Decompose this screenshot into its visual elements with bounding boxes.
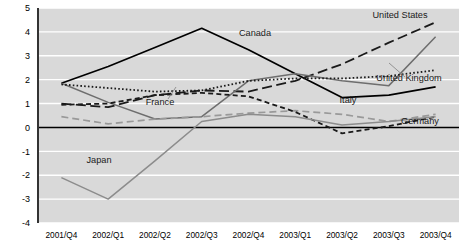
x-tick-label: 2003/Q2 <box>326 230 358 240</box>
plot-area-background <box>38 8 459 223</box>
x-tick-label: 2003/Q3 <box>373 230 405 240</box>
series-label-united-kingdom: United Kingdom <box>376 73 442 83</box>
series-label-france: France <box>146 97 175 107</box>
y-tick-label: 2 <box>25 75 30 85</box>
x-axis-tick-labels: 2001/Q42002/Q12002/Q22002/Q32002/Q42003/… <box>45 230 451 240</box>
y-tick-label: -2 <box>22 170 30 180</box>
y-tick-label: -1 <box>22 147 30 157</box>
x-tick-label: 2002/Q1 <box>92 230 124 240</box>
x-tick-label: 2002/Q4 <box>233 230 265 240</box>
series-label-italy: Italy <box>340 95 357 105</box>
series-label-germany: Germany <box>401 116 439 126</box>
y-tick-label: 3 <box>25 51 30 61</box>
y-tick-label: 5 <box>25 3 30 13</box>
x-tick-label: 2002/Q2 <box>139 230 171 240</box>
series-label-japan: Japan <box>86 155 111 165</box>
series-label-united-states: United States <box>372 10 428 20</box>
plot-background-group <box>38 8 459 223</box>
x-tick-label: 2003/Q1 <box>279 230 311 240</box>
y-axis-tick-labels: 543210-1-2-3-4 <box>22 3 30 228</box>
y-tick-label: 0 <box>25 123 30 133</box>
x-tick-label: 2003/Q4 <box>420 230 452 240</box>
series-label-canada: Canada <box>239 28 272 38</box>
x-tick-label: 2002/Q3 <box>186 230 218 240</box>
line-chart: CanadaUnited StatesUnited KingdomFranceI… <box>0 0 459 251</box>
y-tick-label: -3 <box>22 194 30 204</box>
x-tick-label: 2001/Q4 <box>45 230 77 240</box>
chart-canvas: CanadaUnited StatesUnited KingdomFranceI… <box>0 0 459 251</box>
y-tick-label: 4 <box>25 27 30 37</box>
y-tick-label: -4 <box>22 218 30 228</box>
y-tick-label: 1 <box>25 99 30 109</box>
